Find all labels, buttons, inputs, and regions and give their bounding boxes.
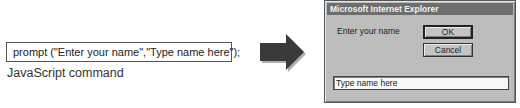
- ok-button[interactable]: OK: [423, 25, 473, 39]
- name-input[interactable]: Type name here: [333, 76, 509, 90]
- arrow-right-icon: [258, 32, 308, 74]
- dialog-titlebar: Microsoft Internet Explorer: [327, 3, 513, 15]
- javascript-command-box: prompt ("Enter your name","Type name her…: [6, 42, 232, 62]
- prompt-dialog: Microsoft Internet Explorer Enter your n…: [324, 0, 516, 103]
- prompt-label: Enter your name: [337, 26, 400, 36]
- javascript-command-caption: JavaScript command: [7, 66, 124, 80]
- cancel-button[interactable]: Cancel: [423, 43, 473, 57]
